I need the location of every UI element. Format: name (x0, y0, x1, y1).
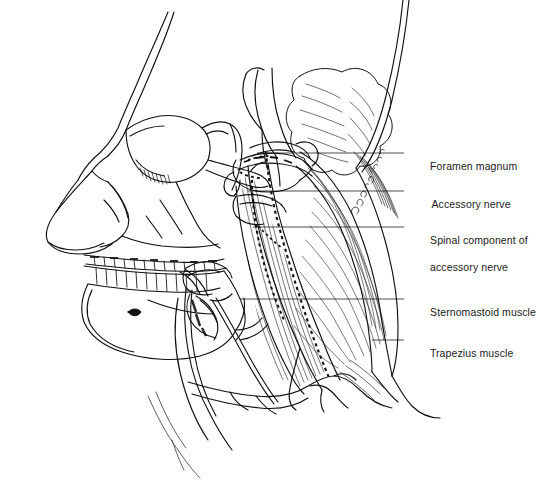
shoulder-contour (372, 372, 440, 418)
label-spinal-component-line1: Spinal component of (430, 234, 528, 246)
nasal-profile (46, 171, 112, 254)
label-spinal-component: Spinal component of accessory nerve (418, 220, 528, 288)
label-accessory-nerve: Accessory nerve (420, 184, 511, 225)
nasal-bone (78, 156, 108, 182)
label-trapezius-muscle: Trapezius muscle (418, 333, 513, 374)
orbit-hatching (140, 168, 170, 184)
brainstem (243, 68, 296, 158)
label-spinal-component-line2: accessory nerve (430, 261, 508, 273)
label-foramen-magnum-text: Foramen magnum (430, 160, 517, 172)
cerebellum (286, 68, 392, 175)
nerve-branch-dotted (258, 226, 282, 248)
orbit (126, 116, 210, 183)
label-sternomastoid-muscle: Sternomastoid muscle (418, 292, 536, 333)
skull-forehead-contour (94, 12, 174, 158)
hyoid-bone (183, 262, 232, 295)
anterior-neck-contour (175, 288, 232, 450)
label-sternomastoid-text: Sternomastoid muscle (430, 306, 536, 318)
axis-vertebra (233, 195, 286, 225)
sternomastoid-muscle (232, 164, 340, 412)
label-accessory-nerve-text: Accessory nerve (432, 198, 511, 210)
lower-sketch-strokes (148, 392, 200, 478)
label-foramen-magnum: Foramen magnum (418, 146, 517, 187)
maxilla (122, 182, 220, 248)
anatomy-figure: Foramen magnum Accessory nerve Spinal co… (0, 0, 545, 482)
label-trapezius-text: Trapezius muscle (430, 347, 514, 359)
